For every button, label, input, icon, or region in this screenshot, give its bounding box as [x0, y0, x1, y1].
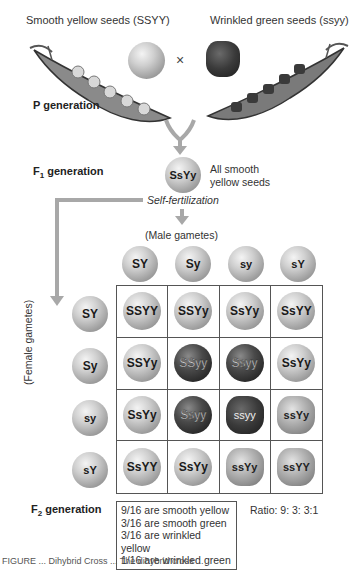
result-line: 3/16 are wrinkled yellow [121, 529, 232, 554]
offspring-seed: SSYy [174, 292, 212, 330]
offspring-seed: Ssyy [226, 344, 264, 382]
male-gamete-sY: sY [280, 246, 316, 282]
punnett-cell: Ssyy [168, 390, 219, 442]
punnett-cell: SsYY [271, 286, 322, 338]
female-gamete-SY: SY [72, 296, 108, 332]
f1-seed: SsYy [165, 157, 201, 193]
offspring-seed: SsYy [277, 344, 315, 382]
offspring-seed: SSYy [123, 344, 161, 382]
result-line: 3/16 are smooth green [121, 517, 232, 530]
parent-wrinkled-green-label: Wrinkled green seeds (ssyy) [210, 14, 349, 26]
male-gamete-arrow-icon [175, 209, 189, 225]
female-gamete-sY: sY [72, 452, 108, 488]
female-gamete-arrowhead-icon [50, 296, 64, 306]
offspring-seed: SsYY [123, 448, 161, 486]
offspring-seed: SsYy [123, 396, 161, 434]
offspring-seed: Ssyy [174, 396, 212, 434]
wrinkled-green-seed-icon [206, 41, 240, 77]
offspring-seed: ssYy [277, 396, 315, 434]
female-gamete-sy: sy [72, 400, 108, 436]
offspring-seed: SsYy [174, 448, 212, 486]
punnett-cell: Ssyy [220, 338, 271, 390]
punnett-cell: ssYy [220, 441, 271, 493]
f1-description-line1: All smooth [210, 163, 270, 176]
punnett-cell: SsYy [220, 286, 271, 338]
punnett-cell: SsYy [168, 441, 219, 493]
punnett-cell: SsYy [117, 390, 168, 442]
ratio-label: Ratio: 9: 3: 3:1 [250, 504, 318, 516]
result-line: 9/16 are smooth yellow [121, 504, 232, 517]
male-gametes-label: (Male gametes) [145, 229, 218, 241]
figure-caption: FIGURE ... Dihybrid Cross ... The dihybr… [2, 556, 203, 566]
f2-generation-label: F2 generation [31, 503, 101, 518]
offspring-seed: ssyy [226, 396, 264, 434]
offspring-seed: SsYY [277, 292, 315, 330]
punnett-cell: ssYY [271, 441, 322, 493]
offspring-seed: ssYy [226, 448, 264, 486]
male-gamete-SY: SY [122, 246, 158, 282]
female-gamete-Sy: Sy [72, 348, 108, 384]
punnett-cell: ssyy [220, 390, 271, 442]
punnett-cell: SsYy [271, 338, 322, 390]
male-gamete-Sy: Sy [175, 246, 211, 282]
punnett-cell: ssYy [271, 390, 322, 442]
punnett-cell: SSyy [168, 338, 219, 390]
f1-generation-label: F1 generation [33, 165, 103, 180]
punnett-cell: SSYy [117, 338, 168, 390]
p-generation-label: P generation [33, 99, 99, 111]
female-gamete-line-horizontal [55, 198, 143, 202]
merge-arrow-icon [160, 118, 200, 156]
cross-symbol: × [176, 52, 184, 68]
self-fertilization-label: Self-fertilization [147, 194, 219, 206]
offspring-seed: SsYy [226, 292, 264, 330]
smooth-yellow-seed-icon [128, 42, 165, 79]
male-gamete-sy: sy [228, 246, 264, 282]
offspring-seed: SSYY [123, 292, 161, 330]
punnett-cell: SSYy [168, 286, 219, 338]
female-gametes-label: (Female gametes) [22, 300, 34, 385]
punnett-cell: SSYY [117, 286, 168, 338]
parent-smooth-yellow-label: Smooth yellow seeds (SSYY) [26, 14, 170, 26]
female-gamete-line-vertical [55, 198, 59, 300]
f1-description-line2: yellow seeds [210, 176, 270, 189]
offspring-seed: ssYY [277, 448, 315, 486]
punnett-square: SSYY SSYy SsYy SsYY SSYy SSyy Ssyy SsYy … [116, 285, 323, 494]
f1-description: All smooth yellow seeds [210, 163, 270, 189]
offspring-seed: SSyy [174, 344, 212, 382]
punnett-cell: SsYY [117, 441, 168, 493]
